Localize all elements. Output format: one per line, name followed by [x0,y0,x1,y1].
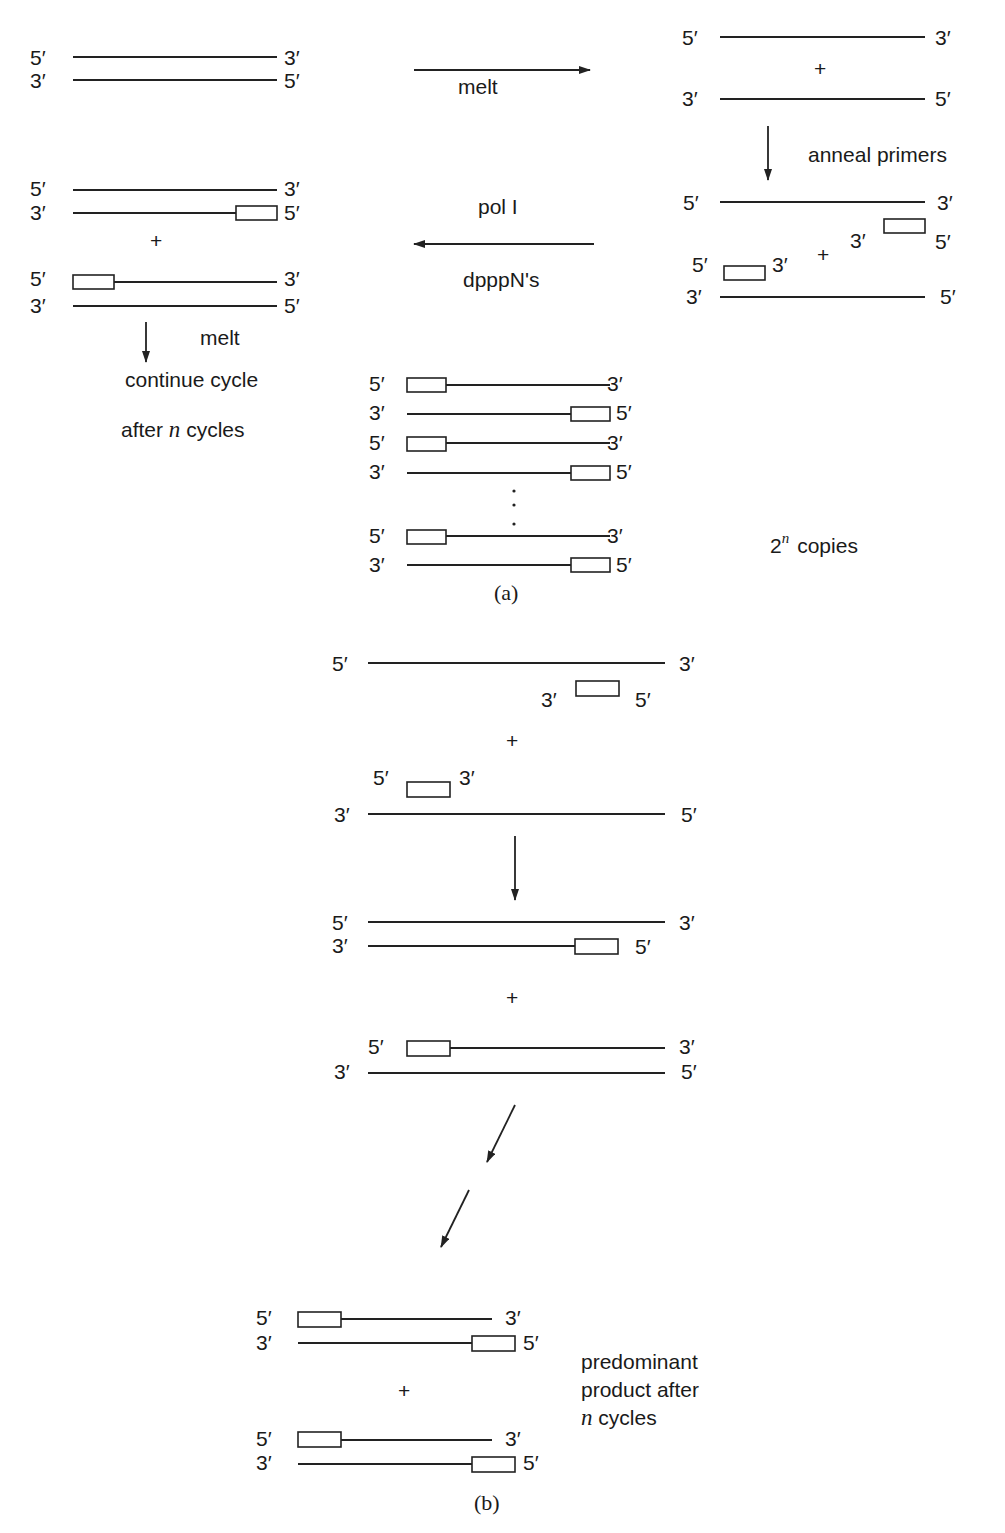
panel-b-caption: (b) [474,1490,500,1515]
separated-strands: 5′ 3′ + 3′ 5′ [682,26,951,110]
five-prime-label: 5′ [373,766,389,789]
five-prime-label: 5′ [635,935,651,958]
three-prime-label: 3′ [369,401,385,424]
five-prime-label: 5′ [256,1427,272,1450]
product-line-3: n cycles [581,1405,657,1430]
three-prime-label: 3′ [505,1306,521,1329]
final-products: 5′ 3′ 3′ 5′ + 5′ 3′ 3′ 5′ predominant pr… [256,1306,699,1474]
three-prime-label: 3′ [937,191,953,214]
five-prime-label: 5′ [681,1060,697,1083]
five-prime-label: 5′ [369,431,385,454]
five-prime-label: 5′ [616,460,632,483]
three-prime-label: 3′ [607,372,623,395]
nucleotides-label: dpppN's [463,268,539,291]
primer-box [407,782,450,797]
five-prime-label: 5′ [683,191,699,214]
primer-box [472,1457,515,1472]
anneal-primers-label: anneal primers [808,143,947,166]
copies-label: 2ncopies [770,530,858,557]
primer-box [407,378,446,392]
first-cycle-products: 5′ 3′ 3′ 5′ + 5′ 3′ 3′ 5′ [332,911,697,1083]
primer-box [571,407,610,421]
plus-sign: + [817,243,829,266]
three-prime-label: 3′ [30,294,46,317]
three-prime-label: 3′ [682,87,698,110]
plus-sign: + [398,1379,410,1402]
continue-cycle-label: continue cycle [125,368,258,391]
plus-sign: + [506,729,518,752]
five-prime-label: 5′ [681,803,697,826]
three-prime-label: 3′ [935,26,951,49]
ellipsis-dot [512,489,515,492]
five-prime-label: 5′ [284,69,300,92]
five-prime-label: 5′ [332,911,348,934]
five-prime-label: 5′ [332,652,348,675]
three-prime-label: 3′ [686,285,702,308]
panel-a-caption: (a) [494,580,518,605]
primer-box [575,939,618,954]
five-prime-label: 5′ [30,267,46,290]
three-prime-label: 3′ [284,267,300,290]
product-line-2: product after [581,1378,699,1401]
melt-step: melt [414,70,590,98]
three-prime-label: 3′ [850,229,866,252]
five-prime-label: 5′ [523,1331,539,1354]
five-prime-label: 5′ [635,688,651,711]
five-prime-label: 5′ [284,294,300,317]
predominant-product-label: predominant product after n cycles [581,1350,699,1430]
product-line-1: predominant [581,1350,698,1373]
three-prime-label: 3′ [505,1427,521,1450]
primer-box [407,530,446,544]
ellipsis-dot [512,503,515,506]
three-prime-label: 3′ [284,177,300,200]
five-prime-label: 5′ [682,26,698,49]
diagonal-arrow-icon [487,1105,515,1162]
melt-label: melt [458,75,498,98]
three-prime-label: 3′ [679,1035,695,1058]
primer-box [298,1312,341,1327]
primer-box [571,558,610,572]
primer-box [884,219,925,233]
five-prime-label: 5′ [692,253,708,276]
primer-box [571,466,610,480]
three-prime-label: 3′ [679,911,695,934]
anneal-step: anneal primers [768,126,947,180]
melt-label: melt [200,326,240,349]
three-prime-label: 3′ [30,201,46,224]
three-prime-label: 3′ [772,253,788,276]
three-prime-label: 3′ [256,1331,272,1354]
primer-box [73,275,114,289]
three-prime-label: 3′ [607,431,623,454]
extension-step: pol I dpppN's [414,195,594,291]
three-prime-label: 3′ [332,934,348,957]
three-prime-label: 3′ [334,803,350,826]
five-prime-label: 5′ [940,285,956,308]
three-prime-label: 3′ [369,553,385,576]
annealed-primers: 5′ 3′ 3′ 5′ + 5′ 3′ 3′ 5′ [683,191,956,308]
primer-box [724,266,765,280]
five-prime-label: 5′ [368,1035,384,1058]
five-prime-label: 5′ [935,87,951,110]
extended-duplexes: 5′ 3′ 3′ 5′ + 5′ 3′ 3′ 5′ [30,177,300,317]
primer-box [407,437,446,451]
five-prime-label: 5′ [30,46,46,69]
three-prime-label: 3′ [459,766,475,789]
primer-box [298,1432,341,1447]
plus-sign: + [814,57,826,80]
diagonal-arrow-icon [441,1190,469,1247]
cycle-step: melt continue cycle after n cycles [121,322,258,442]
three-prime-label: 3′ [369,460,385,483]
ellipsis-dot [512,522,515,525]
five-prime-label: 5′ [616,401,632,424]
five-prime-label: 5′ [256,1306,272,1329]
amplified-copies: 5′ 3′ 3′ 5′ 5′ 3′ 3′ 5′ 5′ 3′ 3′ 5′ 2nco… [369,372,858,576]
initial-duplex: 5′ 3′ 3′ 5′ [30,46,300,92]
pcr-diagram: 5′ 3′ 3′ 5′ melt 5′ 3′ + 3′ 5′ anneal pr… [0,0,1005,1533]
three-prime-label: 3′ [30,69,46,92]
after-n-cycles-label: after n cycles [121,417,245,442]
primer-box [236,206,277,220]
five-prime-label: 5′ [30,177,46,200]
primer-box [576,681,619,696]
plus-sign: + [150,229,162,252]
pol-i-label: pol I [478,195,518,218]
